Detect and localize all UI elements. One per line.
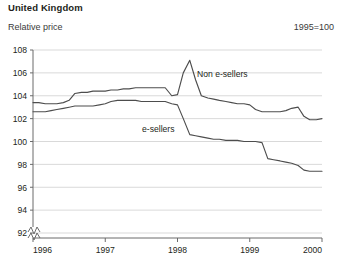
series-label-non-esellers: Non e-sellers [197,69,248,79]
y-tick-label: 92 [17,228,27,238]
y-tick-label: 96 [17,183,27,193]
y-tick-label: 100 [13,137,28,147]
series-line-non-e-sellers [33,60,322,119]
x-tick-label: 1996 [33,245,52,255]
y-tick-label: 108 [13,45,28,55]
x-tick-label: 1998 [168,245,187,255]
series-label-esellers: e-sellers [142,124,174,134]
x-tick-label: 2000 [303,245,322,255]
chart-container: United Kingdom Relative price 1995=100 9… [0,0,344,263]
y-tick-label: 98 [17,160,27,170]
y-tick-label: 106 [13,68,28,78]
y-tick-label: 102 [13,114,28,124]
y-tick-label: 94 [17,205,27,215]
y-tick-label: 104 [13,91,28,101]
x-tick-label: 1997 [96,245,115,255]
x-tick-label: 1999 [240,245,259,255]
series-line-e-sellers [33,100,322,171]
